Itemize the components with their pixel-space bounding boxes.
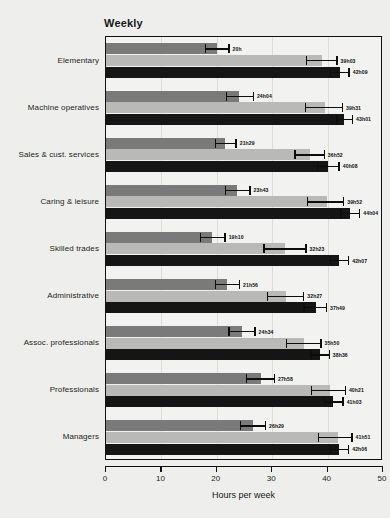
- bar-row: 42h06: [106, 444, 383, 455]
- bar-value-label: 42h06: [352, 446, 367, 452]
- bar: [106, 185, 237, 196]
- bar-group: 21h5632h2737h49: [106, 273, 381, 320]
- bar: [106, 326, 242, 337]
- bar-value-label: 24h04: [257, 93, 272, 99]
- bar-group: 24h0439h3143h01: [106, 84, 381, 131]
- error-bar: [310, 349, 329, 360]
- bar-row: 42h09: [106, 67, 383, 78]
- bar-row: 21h56: [106, 279, 383, 290]
- bar: [106, 161, 328, 172]
- bar-value-label: 32h23: [310, 246, 325, 252]
- category-label: Sales & cust. services: [19, 149, 99, 158]
- bar-row: 19h10: [106, 232, 383, 243]
- x-axis-tick-label: 10: [156, 474, 165, 483]
- x-axis-tick: [382, 466, 383, 472]
- error-bar: [330, 255, 349, 266]
- plot-inner: 20h39h0342h0924h0439h3143h0121h2936h5240…: [106, 37, 381, 459]
- bar-row: 41h03: [106, 396, 383, 407]
- x-axis-tick: [105, 466, 106, 472]
- bar: [106, 208, 350, 219]
- bar-row: 24h04: [106, 91, 383, 102]
- error-bar: [205, 43, 229, 54]
- bar-row: 41h51: [106, 432, 383, 443]
- bar-row: 44h04: [106, 208, 383, 219]
- category-label: Professionals: [50, 385, 99, 394]
- bar-row: 39h31: [106, 102, 383, 113]
- bar: [106, 91, 239, 102]
- bar-row: 27h58: [106, 373, 383, 384]
- bar: [106, 349, 320, 360]
- bar: [106, 432, 338, 443]
- x-axis-tick-label: 20: [211, 474, 220, 483]
- error-bar: [228, 326, 255, 337]
- x-axis-tick-label: 40: [322, 474, 331, 483]
- bar: [106, 67, 340, 78]
- x-axis-label: Hours per week: [105, 490, 382, 500]
- error-bar: [215, 279, 240, 290]
- bar-value-label: 43h01: [356, 116, 371, 122]
- bar: [106, 302, 316, 313]
- error-bar: [306, 55, 338, 66]
- category-label: Elementary: [58, 55, 99, 64]
- error-bar: [286, 338, 321, 349]
- bar-row: 38h36: [106, 349, 383, 360]
- error-bar: [240, 420, 267, 431]
- x-axis-tick-label: 0: [103, 474, 107, 483]
- bar: [106, 243, 285, 254]
- error-bar: [215, 138, 237, 149]
- error-bar: [317, 161, 340, 172]
- bar: [106, 196, 327, 207]
- category-label: Caring & leisure: [40, 196, 99, 205]
- bar-value-label: 40h08: [343, 163, 358, 169]
- error-bar: [225, 185, 250, 196]
- bar-row: 20h: [106, 43, 383, 54]
- bar-value-label: 19h10: [229, 234, 244, 240]
- bar-row: 39h03: [106, 55, 383, 66]
- bar: [106, 149, 310, 160]
- bar-row: 35h50: [106, 338, 383, 349]
- error-bar: [311, 385, 346, 396]
- x-axis-line: [105, 466, 382, 467]
- category-label: Machine operatives: [28, 102, 99, 111]
- bar-row: 23h43: [106, 185, 383, 196]
- x-axis-tick: [271, 466, 272, 472]
- bar: [106, 373, 261, 384]
- error-bar: [330, 444, 349, 455]
- bar: [106, 338, 304, 349]
- bar-row: 40h08: [106, 161, 383, 172]
- bar-row: 26h29: [106, 420, 383, 431]
- error-bar: [263, 243, 306, 254]
- bar-value-label: 41h03: [347, 399, 362, 405]
- bar-value-label: 24h34: [259, 329, 274, 335]
- bar-group: 19h1032h2342h07: [106, 225, 381, 272]
- bar-group: 21h2936h5240h08: [106, 131, 381, 178]
- bar-value-label: 36h52: [328, 152, 343, 158]
- error-bar: [336, 114, 353, 125]
- bar: [106, 114, 344, 125]
- bar: [106, 385, 330, 396]
- bar-value-label: 21h56: [243, 282, 258, 288]
- bar-row: 37h49: [106, 302, 383, 313]
- category-label: Skilled trades: [50, 244, 99, 253]
- bar-value-label: 41h51: [356, 434, 371, 440]
- bar-value-label: 39h52: [347, 199, 362, 205]
- x-axis-tick: [216, 466, 217, 472]
- bar-group: 23h4339h5244h04: [106, 178, 381, 225]
- bar: [106, 102, 325, 113]
- bar-value-label: 21h29: [240, 140, 255, 146]
- bar-row: 24h34: [106, 326, 383, 337]
- bar-row: 39h52: [106, 196, 383, 207]
- error-bar: [246, 373, 275, 384]
- category-label: Administrative: [47, 291, 99, 300]
- bar: [106, 291, 286, 302]
- x-axis-tick: [160, 466, 161, 472]
- error-bar: [324, 396, 344, 407]
- bar-row: 36h52: [106, 149, 383, 160]
- bar-row: 40h21: [106, 385, 383, 396]
- error-bar: [200, 232, 226, 243]
- category-axis-labels: ElementaryMachine operativesSales & cust…: [0, 36, 99, 460]
- bar-row: 43h01: [106, 114, 383, 125]
- bar-group: 24h3435h5038h36: [106, 320, 381, 367]
- x-axis-tick-label: 30: [267, 474, 276, 483]
- bar-value-label: 35h50: [325, 340, 340, 346]
